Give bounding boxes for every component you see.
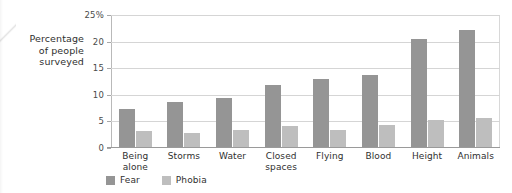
bar-group xyxy=(451,15,500,148)
legend-label: Fear xyxy=(120,175,140,185)
x-axis-label-line: Height xyxy=(403,151,452,162)
y-tick-label-15: 15 xyxy=(93,63,104,73)
bar-fear xyxy=(167,102,183,148)
bar-group xyxy=(354,15,403,148)
x-axis-label: Animals xyxy=(451,151,500,172)
legend-label: Phobia xyxy=(176,175,207,185)
x-axis-label: Height xyxy=(403,151,452,172)
bar-groups xyxy=(111,15,500,148)
x-axis-label-line: Being xyxy=(111,151,160,162)
x-axis-label-line: Flying xyxy=(306,151,355,162)
bar-phobia xyxy=(330,130,346,148)
bar-phobia xyxy=(476,118,492,148)
x-axis-label: Flying xyxy=(306,151,355,172)
y-tick-label-0: 0 xyxy=(98,143,104,153)
x-axis-label-line: alone xyxy=(111,162,160,173)
bar-fear xyxy=(265,85,281,148)
legend-item-phobia: Phobia xyxy=(162,175,207,185)
x-axis-label: Closedspaces xyxy=(257,151,306,172)
legend-swatch-icon xyxy=(106,176,115,185)
bar-fear xyxy=(119,109,135,148)
bar-phobia xyxy=(136,131,152,148)
x-axis-label-line: Animals xyxy=(451,151,500,162)
bar-group xyxy=(403,15,452,148)
bar-phobia xyxy=(184,133,200,148)
bar-group xyxy=(160,15,209,148)
bar-fear xyxy=(216,98,232,148)
bar-fear xyxy=(362,75,378,148)
y-tick-label-25: 25% xyxy=(85,10,105,20)
legend-swatch-icon xyxy=(162,176,171,185)
bar-fear xyxy=(411,39,427,148)
x-axis-label-line: Storms xyxy=(160,151,209,162)
chart-legend: FearPhobia xyxy=(106,175,221,185)
bar-group xyxy=(111,15,160,148)
plot-area: 0510152025% xyxy=(111,15,500,148)
bar-group xyxy=(306,15,355,148)
bar-chart-figure: Percentage of people surveyed 0510152025… xyxy=(0,0,512,193)
bar-group xyxy=(208,15,257,148)
y-tick-label-10: 10 xyxy=(93,90,104,100)
axis-baseline xyxy=(107,147,500,148)
bar-phobia xyxy=(379,125,395,148)
x-axis-label: Beingalone xyxy=(111,151,160,172)
y-axis-title-line-2: of people xyxy=(6,45,84,57)
bar-phobia xyxy=(428,120,444,148)
bar-fear xyxy=(459,30,475,148)
x-axis-label-line: Closed xyxy=(257,151,306,162)
y-axis-title-line-1: Percentage xyxy=(6,33,84,45)
x-axis-label-line: Blood xyxy=(354,151,403,162)
legend-item-fear: Fear xyxy=(106,175,140,185)
tick-mark-0 xyxy=(107,148,111,149)
x-axis-label: Storms xyxy=(160,151,209,172)
bar-phobia xyxy=(282,126,298,148)
y-axis-title: Percentage of people surveyed xyxy=(6,33,84,68)
bar-phobia xyxy=(233,130,249,148)
x-axis-label: Blood xyxy=(354,151,403,172)
x-axis-label-line: spaces xyxy=(257,162,306,173)
y-axis-title-line-3: surveyed xyxy=(6,56,84,68)
x-axis-label: Water xyxy=(208,151,257,172)
y-tick-label-20: 20 xyxy=(93,37,104,47)
x-axis-label-line: Water xyxy=(208,151,257,162)
y-tick-label-5: 5 xyxy=(98,116,104,126)
x-axis-category-labels: BeingaloneStormsWaterClosedspacesFlyingB… xyxy=(111,151,500,172)
bar-fear xyxy=(313,79,329,148)
scan-edge-artifact xyxy=(0,0,3,193)
bar-group xyxy=(257,15,306,148)
